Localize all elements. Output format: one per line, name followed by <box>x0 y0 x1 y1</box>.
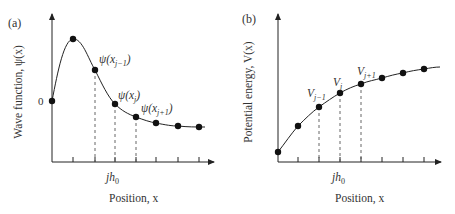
panel-a-tag: (a) <box>8 16 21 30</box>
zero-label: 0 <box>38 95 44 107</box>
label-psi-j: ψ(xj) <box>118 89 140 104</box>
x-axis-label-a: Position, x <box>109 192 158 205</box>
tick-label-jh0-a: jh0 <box>104 171 119 186</box>
tick-label-jh0-b: jh0 <box>330 171 345 186</box>
label-psi-j-plus-1: ψ(xj+1) <box>141 102 173 117</box>
panel-b-tag: (b) <box>242 12 256 26</box>
dashed-guides-a <box>95 70 136 162</box>
panel-b-potential-energy: (b) Vj−1 Vj <box>242 12 441 205</box>
y-axis-label-a: Wave function, ψ(x) <box>12 45 25 139</box>
y-axis-label-b: Potential energy, V(x) <box>242 41 255 143</box>
x-axis-label-b: Position, x <box>335 192 384 205</box>
wave-points <box>49 36 202 130</box>
potential-points <box>275 66 427 155</box>
label-v-j-plus-1: Vj+1 <box>357 65 376 80</box>
label-v-j-minus-1: Vj−1 <box>307 87 326 102</box>
label-v-j: Vj <box>333 76 343 91</box>
label-psi-j-minus-1: ψ(xj−1) <box>99 53 131 68</box>
panel-a-wave-function: (a) 0 ψ(xj−1) <box>8 14 214 205</box>
figure: (a) 0 ψ(xj−1) <box>0 0 455 214</box>
potential-curve <box>278 67 440 152</box>
